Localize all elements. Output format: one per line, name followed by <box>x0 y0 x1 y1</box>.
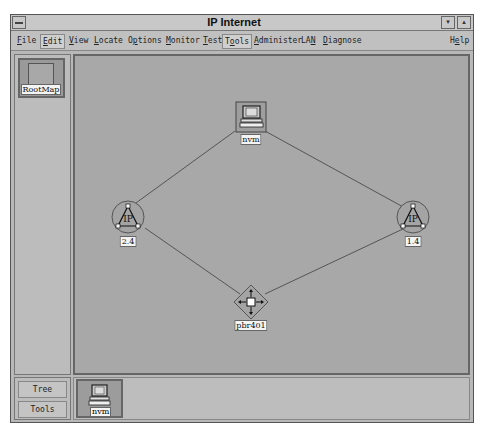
maximize-button[interactable]: ▴ <box>457 16 471 29</box>
ip-internet-window: IP Internet ▾ ▴ File Edit View Locate Op… <box>10 14 474 423</box>
node-label-pbr401: pbr401 <box>234 320 267 331</box>
node-label-nvm: nvm <box>240 134 261 145</box>
menu-locate[interactable]: Locate <box>92 34 125 47</box>
menu-file[interactable]: File <box>15 34 38 47</box>
link-nvm-to-ip-1-4[interactable] <box>265 131 405 208</box>
link-nvm-to-ip-2-4[interactable] <box>129 131 235 208</box>
title-bar[interactable]: IP Internet ▾ ▴ <box>11 15 473 31</box>
network-map-canvas[interactable]: IP IP <box>73 54 470 375</box>
menu-options[interactable]: Options <box>126 34 164 47</box>
menu-diagnose[interactable]: Diagnose <box>321 34 364 47</box>
node-label-2-4: 2.4 <box>120 236 137 247</box>
workstation-node-nvm[interactable] <box>236 102 266 132</box>
workstation-icon <box>240 106 263 127</box>
router-node-pbr401[interactable] <box>234 285 268 319</box>
menu-tools[interactable]: Tools <box>222 34 252 49</box>
menu-administer[interactable]: Administer <box>252 34 304 47</box>
tools-button[interactable]: Tools <box>18 401 67 418</box>
router-icon <box>238 289 264 315</box>
system-menu-button[interactable] <box>12 16 26 29</box>
menu-help[interactable]: Help <box>448 34 471 47</box>
menu-test[interactable]: Test <box>201 34 224 47</box>
tree-button[interactable]: Tree <box>18 381 67 398</box>
node-label-1-4: 1.4 <box>405 236 422 247</box>
menu-edit[interactable]: Edit <box>40 34 65 49</box>
rootmap-thumbnail[interactable]: RootMap <box>18 58 65 98</box>
link-ip-2-4-to-router[interactable] <box>145 228 240 294</box>
map-thumbnail-icon <box>28 63 54 85</box>
menu-view[interactable]: View <box>67 34 90 47</box>
network-map-drawing: IP IP <box>75 56 468 373</box>
map-navigation-panel: RootMap <box>14 54 71 375</box>
menu-bar: File Edit View Locate Options Monitor Te… <box>11 31 473 51</box>
menu-lan[interactable]: LAN <box>299 34 317 47</box>
minimize-button[interactable]: ▾ <box>441 16 455 29</box>
ip-network-node-1-4[interactable]: IP <box>397 201 429 233</box>
tray-item-nvm[interactable]: nvm <box>76 379 123 418</box>
ip-network-node-2-4[interactable]: IP <box>112 201 144 233</box>
window-title: IP Internet <box>27 16 441 28</box>
menu-monitor[interactable]: Monitor <box>164 34 202 47</box>
view-switcher-panel: Tree Tools <box>14 377 71 420</box>
link-ip-1-4-to-router[interactable] <box>265 228 405 294</box>
rootmap-label: RootMap <box>21 84 61 95</box>
tray-item-label: nvm <box>90 407 111 417</box>
svg-text:IP: IP <box>123 214 133 224</box>
tool-tray: nvm <box>73 377 470 420</box>
svg-text:IP: IP <box>408 214 418 224</box>
